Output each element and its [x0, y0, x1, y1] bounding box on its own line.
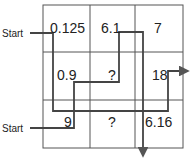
cell-r1-c2: 6.1 — [101, 20, 121, 36]
cell-r1-c1: 0.125 — [50, 20, 85, 36]
start-label-top: Start — [2, 28, 23, 39]
start-label-bottom: Start — [2, 123, 23, 134]
cell-r2-c2: ? — [108, 67, 116, 83]
maze-diagram: Start Start 0.125 6.1 7 0.9 ? 18 9 ? 6.1… — [0, 0, 195, 162]
path-bottom-start — [30, 32, 143, 156]
cell-r2-c3: 18 — [152, 67, 168, 83]
cell-r2-c1: 0.9 — [57, 67, 77, 83]
cell-r3-c2: ? — [108, 114, 116, 130]
cell-r3-c3: 6.16 — [145, 114, 172, 130]
cell-r3-c1: 9 — [64, 114, 72, 130]
cell-r1-c3: 7 — [154, 20, 162, 36]
